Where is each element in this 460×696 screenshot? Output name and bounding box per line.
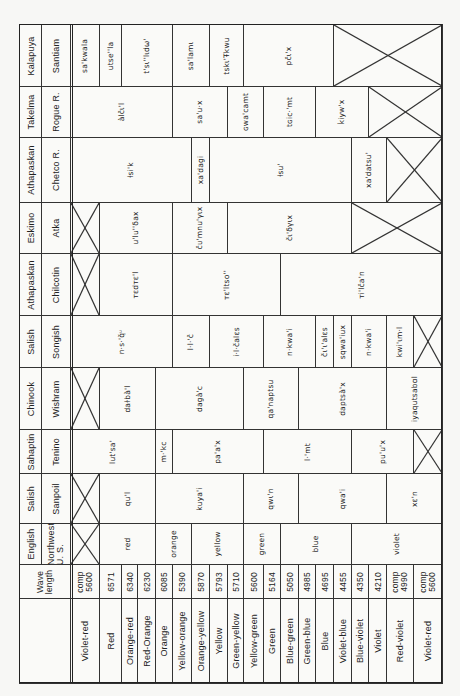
wave-length-value-text: 5050	[285, 572, 294, 592]
wave-length-value: 5390	[172, 564, 192, 599]
language-family-label: Chinook	[19, 367, 42, 430]
color-term-cell: tɢic·'mt	[263, 86, 316, 138]
wave-length-value-text: 6340	[125, 572, 134, 592]
color-term-cell-text: green	[258, 533, 266, 556]
wave-length-value: comp 5600	[413, 564, 443, 599]
wave-length-value-text: 5793	[214, 572, 223, 592]
color-term-cell: iyaqutsabɑl	[386, 367, 443, 430]
color-term-cell-text: pa'a'x	[214, 440, 222, 464]
color-term-cell: xa'dagi	[191, 137, 210, 203]
color-term-cell: n·s·'q̌ᵘ	[70, 315, 173, 368]
color-name-cell: Violet-red	[70, 598, 100, 684]
wave-length-value-text: 4695	[320, 572, 329, 592]
language-name-label-text: Atka	[52, 219, 61, 238]
wave-length-value-text: comp 5600	[419, 571, 437, 593]
color-term-cell-text: qa'naptsu	[267, 379, 275, 418]
color-term-cell: čɩ'ɩ'alɛs	[315, 315, 334, 368]
color-name-cell-text: Violet-red	[81, 621, 90, 661]
not-applicable-cross-icon	[387, 138, 442, 202]
wave-length-value: 5710	[227, 564, 244, 599]
color-term-cell-text: daptsà'x	[339, 382, 347, 416]
empty-cell	[70, 367, 100, 430]
color-name-cell: Green	[263, 598, 281, 684]
color-term-cell-text: blue	[312, 535, 320, 552]
color-term-cell: ɢwa'camt	[227, 86, 264, 138]
color-name-cell: Red-violet	[386, 598, 414, 684]
color-term-cell-text: qwa'i	[339, 488, 347, 509]
double-rule	[72, 24, 73, 683]
color-term-cell: daɫbà'l	[99, 367, 156, 430]
empty-cell	[70, 523, 100, 565]
language-name-label: Chetco R.	[41, 137, 71, 203]
color-term-cell-text: sa'u·x	[196, 100, 204, 123]
color-term-cell-text: ƚsu'	[277, 163, 285, 177]
color-term-cell: red	[99, 523, 156, 565]
color-name-cell-text: Violet-blue	[338, 619, 347, 664]
color-term-cell-text: l·'mt	[304, 443, 312, 461]
language-family-label-text: Sahaptin	[26, 433, 35, 470]
color-name-cell-text: Red-violet	[396, 620, 405, 663]
color-term-cell: pa'a'x	[172, 429, 264, 474]
wave-length-value: 4350	[351, 564, 369, 599]
wave-length-value-text: 5710	[231, 572, 240, 592]
color-name-cell-text: Orange-yellow	[196, 611, 205, 672]
color-term-cell: sqwa'iux	[333, 315, 352, 368]
language-name-label-text: Songish	[52, 325, 61, 359]
color-term-cell-text: sqwa'iux	[339, 324, 347, 358]
color-term-cell-text: u'lu''δax	[132, 211, 140, 244]
color-term-cell: utse''la	[99, 24, 122, 87]
language-name-label: Atka	[41, 202, 71, 254]
wave-length-header-text: Wave length	[36, 569, 54, 593]
color-term-cell: čᴜ'mnu'γɩx	[172, 202, 228, 254]
color-term-cell: kwi'ɩm·l	[386, 315, 414, 368]
language-family-label-text: Kalapuya	[26, 36, 35, 75]
color-name-cell-text: Yellow	[214, 628, 223, 655]
color-term-cell-text: čɩ'δγɩx	[286, 215, 294, 241]
language-family-label-text: Athapaskan	[26, 145, 35, 195]
color-name-cell-text: Blue	[320, 632, 329, 651]
language-name-label: Sanpoil	[41, 473, 71, 524]
color-term-cell-text: čɩ'ɩ'alɛs	[321, 327, 329, 357]
language-family-label-text: English	[26, 529, 35, 560]
color-name-cell: Violet-blue	[333, 598, 352, 684]
color-term-cell: àlčɩ'l	[70, 86, 173, 138]
color-term-cell: sa'kwala	[70, 24, 100, 87]
language-family-label: Eskimo	[19, 202, 42, 254]
color-term-cell-text: n·kwa'i	[365, 328, 373, 356]
color-name-cell: Yellow-orange	[172, 598, 192, 684]
color-name-cell-text: Blue-violet	[356, 619, 365, 663]
empty-cell	[368, 86, 443, 138]
color-term-cell-text: m·'kc	[160, 441, 168, 462]
color-term-cell: xɛ'n	[386, 473, 443, 524]
color-name-cell: Orange-yellow	[191, 598, 210, 684]
wave-length-value-text: 6230	[142, 572, 151, 592]
wave-length-value: 4695	[315, 564, 334, 599]
color-term-cell-text: ɢwa'camt	[242, 93, 250, 131]
color-term-cell: qwɩ'n	[243, 473, 299, 524]
color-term-cell: kuya'i	[155, 473, 244, 524]
color-term-cell: xa'datsu'	[351, 137, 387, 203]
empty-cell	[386, 137, 443, 203]
language-family-label-text: Chinook	[26, 381, 35, 415]
color-name-cell: Orange-red	[121, 598, 138, 684]
color-term-cell: blue	[280, 523, 352, 565]
color-name-cell-text: Orange-red	[125, 617, 134, 665]
color-term-cell-text: k̇iyw'x	[338, 100, 346, 125]
color-term-cell-text: yellow	[214, 531, 222, 556]
color-term-cell: dagà'c	[155, 367, 244, 430]
color-term-cell: n·kwa'i	[351, 315, 387, 368]
wave-length-value: 5870	[191, 564, 210, 599]
language-family-label: English	[19, 523, 42, 565]
wave-length-value-text: comp 5600	[76, 571, 94, 593]
not-applicable-cross-icon	[414, 316, 442, 367]
color-term-cell: m·'kc	[155, 429, 173, 474]
language-name-label-text: Tenino	[52, 438, 61, 466]
wave-length-value-text: 4985	[303, 572, 312, 592]
color-name-cell-text: Green-yellow	[231, 613, 240, 668]
color-term-cell: i·l·čalɛs	[209, 315, 264, 368]
color-term-cell-text: red	[124, 538, 132, 551]
language-name-label-text: Santiam	[52, 38, 61, 72]
color-name-cell-text: Blue-green	[285, 618, 294, 664]
language-name-label: Songish	[41, 315, 71, 368]
color-term-cell: orange	[155, 523, 192, 565]
